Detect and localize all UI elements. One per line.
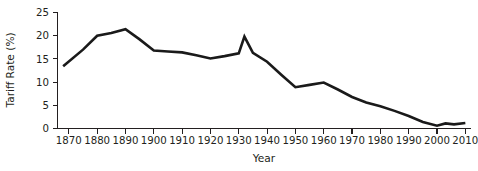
y-tick-label: 0 bbox=[43, 123, 49, 134]
x-tick-label: 1890 bbox=[113, 135, 139, 146]
y-tick-label: 10 bbox=[36, 77, 49, 88]
y-tick-label: 20 bbox=[36, 30, 49, 41]
x-tick-label: 1880 bbox=[84, 135, 110, 146]
x-tick-label: 1870 bbox=[56, 135, 82, 146]
y-tick-label: 15 bbox=[36, 54, 49, 65]
x-tick-label: 1900 bbox=[141, 135, 167, 146]
y-axis-title: Tariff Rate (%) bbox=[4, 32, 16, 108]
y-axis-tick-labels: 0510152025 bbox=[36, 7, 49, 134]
x-axis-tick-labels: 1870188018901900191019201930194019501960… bbox=[56, 135, 478, 146]
x-axis-ticks bbox=[69, 129, 466, 134]
x-tick-label: 2000 bbox=[424, 135, 450, 146]
chart-figure: 0510152025 18701880189019001910192019301… bbox=[0, 0, 478, 171]
tariff-rate-line-chart: 0510152025 18701880189019001910192019301… bbox=[0, 0, 478, 171]
x-tick-label: 1950 bbox=[282, 135, 308, 146]
x-tick-label: 1980 bbox=[367, 135, 393, 146]
x-tick-label: 2010 bbox=[452, 135, 478, 146]
x-tick-label: 1920 bbox=[197, 135, 223, 146]
data-series-line bbox=[63, 29, 465, 126]
x-tick-label: 1970 bbox=[339, 135, 365, 146]
y-axis-ticks bbox=[53, 13, 58, 129]
x-tick-label: 1940 bbox=[254, 135, 280, 146]
x-axis-title: Year bbox=[252, 152, 276, 164]
x-tick-label: 1910 bbox=[169, 135, 195, 146]
x-tick-label: 1930 bbox=[226, 135, 252, 146]
x-tick-label: 1960 bbox=[311, 135, 337, 146]
x-tick-label: 1990 bbox=[396, 135, 422, 146]
y-tick-label: 5 bbox=[43, 100, 49, 111]
y-tick-label: 25 bbox=[36, 7, 49, 18]
